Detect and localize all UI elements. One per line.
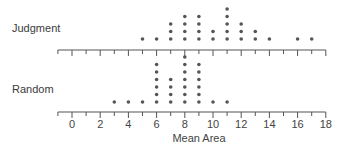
data-point (239, 22, 243, 26)
data-point (169, 100, 173, 104)
data-point (183, 93, 187, 97)
data-point (169, 22, 173, 26)
data-point (211, 37, 215, 41)
data-point (225, 37, 229, 41)
data-point (113, 100, 117, 104)
data-point (155, 63, 159, 67)
data-point (155, 37, 159, 41)
x-tick-label: 10 (207, 118, 219, 130)
data-point (169, 85, 173, 89)
data-point (183, 30, 187, 34)
data-point (155, 100, 159, 104)
data-point (183, 22, 187, 26)
x-tick-label: 8 (182, 118, 188, 130)
data-point (197, 100, 201, 104)
data-point (169, 78, 173, 82)
x-tick-label: 18 (320, 118, 332, 130)
x-tick-label: 12 (235, 118, 247, 130)
data-point (155, 85, 159, 89)
data-point (197, 63, 201, 67)
x-tick-label: 2 (97, 118, 103, 130)
data-point (183, 70, 187, 74)
data-point (197, 15, 201, 19)
x-tick-label: 4 (125, 118, 131, 130)
dot-plot-chart: 024681012141618 Mean Area (0, 0, 342, 148)
data-point (239, 30, 243, 34)
data-point (225, 22, 229, 26)
data-point (211, 100, 215, 104)
x-tick-label: 16 (291, 118, 303, 130)
data-point (239, 37, 243, 41)
data-point (169, 93, 173, 97)
data-point (155, 78, 159, 82)
data-point (225, 15, 229, 19)
data-point (155, 93, 159, 97)
data-point (183, 37, 187, 41)
data-point (197, 78, 201, 82)
data-point (225, 7, 229, 11)
data-point (197, 70, 201, 74)
data-point (127, 100, 131, 104)
data-point (225, 100, 229, 104)
data-point (268, 37, 272, 41)
data-point (197, 37, 201, 41)
x-tick-label: 6 (154, 118, 160, 130)
x-tick-label: 0 (69, 118, 75, 130)
data-point (197, 85, 201, 89)
data-point (141, 100, 145, 104)
data-point (183, 15, 187, 19)
data-point (197, 30, 201, 34)
data-point (169, 30, 173, 34)
data-point (155, 70, 159, 74)
data-point (254, 30, 258, 34)
data-point (141, 37, 145, 41)
data-point (225, 30, 229, 34)
judgment-dot-plot (58, 7, 326, 56)
data-point (169, 37, 173, 41)
x-tick-label: 14 (263, 118, 275, 130)
data-point (197, 22, 201, 26)
data-point (296, 37, 300, 41)
data-point (183, 78, 187, 82)
data-point (310, 37, 314, 41)
data-point (183, 100, 187, 104)
data-point (211, 30, 215, 34)
data-point (183, 55, 187, 59)
data-point (183, 85, 187, 89)
data-point (254, 37, 258, 41)
data-point (183, 63, 187, 67)
data-point (197, 93, 201, 97)
x-axis-title: Mean Area (172, 132, 226, 144)
random-dot-plot: 024681012141618 (58, 55, 332, 130)
